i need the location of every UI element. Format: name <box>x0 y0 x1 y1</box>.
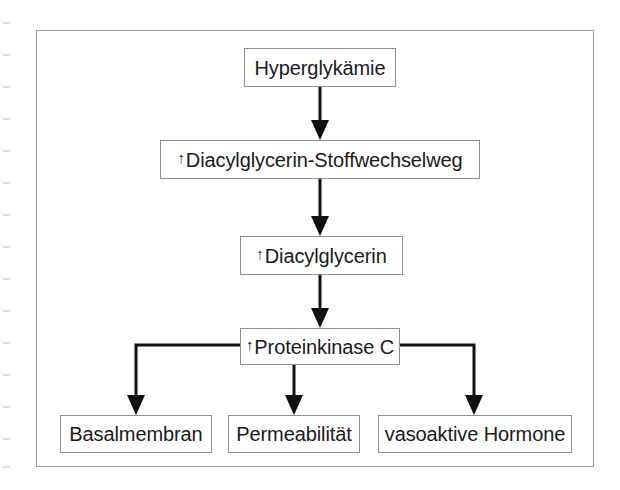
arrowhead-dag <box>311 216 329 236</box>
flow-node-diacylglycerin: ↑ Diacylglycerin <box>240 236 403 275</box>
flow-node-label: Basalmembran <box>69 424 202 444</box>
arrowhead-permeabilitaet <box>285 395 303 415</box>
flow-node-label: Proteinkinase C <box>254 337 394 357</box>
arrowhead-dag-pathway <box>311 120 329 140</box>
arrowhead-hormone <box>465 395 483 415</box>
increase-arrow-icon: ↑ <box>246 337 253 352</box>
flow-node-label: Hyperglykämie <box>251 58 390 78</box>
flow-node-proteinkinase-c: ↑ Proteinkinase C <box>240 328 400 365</box>
flow-node-label: Diacylglycerin-Stoffwechselweg <box>186 150 463 170</box>
flowchart-canvas: Hyperglykämie ↑ Diacylglycerin-Stoffwech… <box>0 0 620 490</box>
arrowhead-pkc <box>311 308 329 328</box>
flow-node-label: vasoaktive Hormone <box>385 424 566 444</box>
edge-pkc-to-basalmembran <box>136 345 240 403</box>
flow-node-basalmembran: Basalmembran <box>60 415 212 453</box>
flow-node-label: Permeabilität <box>236 424 351 444</box>
increase-arrow-icon: ↑ <box>256 246 263 261</box>
flow-node-diacylglycerin-stoffwechselweg: ↑ Diacylglycerin-Stoffwechselweg <box>160 140 480 179</box>
arrowhead-basalmembran <box>127 395 145 415</box>
flow-node-vasoaktive-hormone: vasoaktive Hormone <box>378 415 572 453</box>
flow-node-hyperglykaemie: Hyperglykämie <box>244 48 396 87</box>
flow-node-label: Diacylglycerin <box>265 246 387 266</box>
flow-node-permeabilitaet: Permeabilität <box>228 415 360 453</box>
edge-pkc-to-hormone <box>400 345 474 403</box>
increase-arrow-icon: ↑ <box>177 150 184 165</box>
page-background: Hyperglykämie ↑ Diacylglycerin-Stoffwech… <box>0 0 620 490</box>
